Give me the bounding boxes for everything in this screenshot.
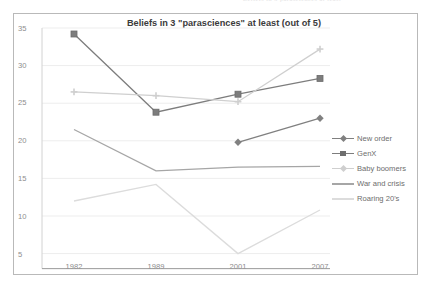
series-line-war-and-crisis [74,130,320,171]
series-point-1-3[interactable] [317,75,323,81]
series-point-0-1[interactable] [316,115,323,122]
legend-label-genx: GenX [357,149,376,158]
legend-label-baby-boomers: Baby boomers [357,164,406,173]
series-line-roaring-20-s [74,184,320,253]
legend-marker-new-order [332,134,354,143]
legend-item-new-order[interactable]: New order [332,131,428,146]
chart-legend: New order GenX Baby boomers War and cris… [332,131,428,206]
series-line-new-order [238,118,320,142]
series-line-baby-boomers [74,49,320,102]
chart-page: Beliefs in 3 parasciences at least Belie… [0,0,432,290]
series-point-1-1[interactable] [153,109,159,115]
legend-label-roaring-20s: Roaring 20's [357,194,399,203]
legend-item-genx[interactable]: GenX [332,146,428,161]
legend-marker-baby-boomers [332,164,354,173]
legend-item-roaring-20s[interactable]: Roaring 20's [332,191,428,206]
series-point-1-2[interactable] [235,91,241,97]
legend-marker-war-and-crisis [332,179,354,188]
series-point-1-0[interactable] [71,31,77,37]
legend-label-war-and-crisis: War and crisis [357,179,405,188]
series-point-2-0[interactable] [71,89,78,96]
chart-container: Beliefs in 3 "parasciences" at least (ou… [13,13,418,275]
ghost-header-text: Beliefs in 3 parasciences at least [243,0,341,2]
series-point-2-3[interactable] [317,46,324,53]
legend-marker-roaring-20s [332,194,354,203]
legend-item-war-and-crisis[interactable]: War and crisis [332,176,428,191]
legend-marker-genx [332,149,354,158]
series-point-2-1[interactable] [153,92,160,99]
legend-label-new-order: New order [357,134,392,143]
series-point-0-0[interactable] [234,139,241,146]
series-point-2-2[interactable] [235,98,242,105]
legend-item-baby-boomers[interactable]: Baby boomers [332,161,428,176]
page-header-ghost-strip: Beliefs in 3 parasciences at least [0,0,432,10]
